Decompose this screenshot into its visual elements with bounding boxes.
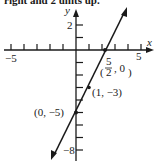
svg-text:2: 2 — [106, 66, 112, 78]
point-label-1-neg3: (1, −3) — [92, 86, 122, 99]
point-y-intercept — [74, 111, 78, 115]
tick-label-5: 5 — [136, 50, 142, 62]
plotted-line — [51, 7, 127, 160]
x-intercept-label: ( 5 2 , 0 ) — [100, 55, 132, 79]
coordinate-plane: y x −5 5 2 −8 ( 5 2 , 0 ) (1, −3) (0, −5… — [0, 0, 158, 161]
svg-text:(: ( — [100, 66, 104, 79]
tick-label-neg8: −8 — [63, 144, 75, 156]
svg-text:): ) — [128, 66, 132, 79]
y-axis — [73, 9, 83, 161]
point-label-0-neg5: (0, −5) — [34, 106, 64, 119]
point-x-intercept — [103, 48, 107, 52]
svg-text:, 0: , 0 — [114, 62, 126, 74]
x-axis-label: x — [146, 36, 152, 48]
tick-label-neg5: −5 — [5, 52, 17, 64]
x-axis — [4, 44, 154, 53]
y-axis-label: y — [64, 4, 70, 16]
tick-label-2: 2 — [67, 19, 73, 31]
point-1-neg3 — [87, 86, 91, 90]
